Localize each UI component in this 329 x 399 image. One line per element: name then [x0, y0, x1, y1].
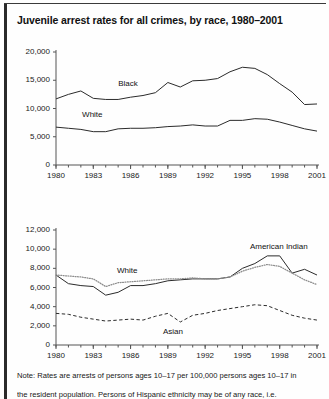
top-border-rule: [4, 3, 326, 4]
x-axis-tick-label: 1995: [224, 351, 260, 360]
figure-note-line-2: the resident population. Persons of Hisp…: [17, 390, 320, 399]
y-axis-tick-label: 0: [0, 160, 50, 169]
x-axis-tick-label: 1986: [113, 351, 149, 360]
y-axis-tick-label: 10,000: [0, 104, 50, 113]
y-axis-tick-label: 6,000: [0, 283, 50, 292]
x-axis-tick-label: 1980: [38, 351, 74, 360]
y-axis-tick-label: 5,000: [0, 132, 50, 141]
y-axis-tick-label: 0: [0, 340, 50, 349]
x-axis-tick-label: 1989: [150, 171, 186, 180]
x-axis-tick-label: 1989: [150, 351, 186, 360]
y-axis-tick-label: 15,000: [0, 75, 50, 84]
chart-panel-top: 05,00010,00015,00020,0001980198319861989…: [0, 40, 329, 190]
y-axis-tick-label: 20,000: [0, 47, 50, 56]
series-label: American Indian: [250, 242, 308, 251]
x-axis-tick-label: 1992: [187, 171, 223, 180]
x-axis-tick-label: 1995: [224, 171, 260, 180]
x-axis-tick-label: 1998: [262, 351, 298, 360]
figure-note-line-1: Note: Rates are arrests of persons ages …: [17, 371, 320, 380]
series-label: Asian: [163, 327, 183, 336]
x-axis-tick-label: 1980: [38, 171, 74, 180]
x-axis-tick-label: 2001: [299, 351, 329, 360]
x-axis-tick-label: 2001: [299, 171, 329, 180]
series-label: White: [82, 110, 102, 119]
y-axis-tick-label: 8,000: [0, 263, 50, 272]
x-axis-tick-label: 1986: [113, 171, 149, 180]
x-axis-tick-label: 1992: [187, 351, 223, 360]
x-axis-tick-label: 1998: [262, 171, 298, 180]
figure-container: Juvenile arrest rates for all crimes, by…: [0, 0, 329, 399]
x-axis-tick-label: 1983: [75, 171, 111, 180]
series-label: Black: [118, 79, 138, 88]
y-axis-tick-label: 12,000: [0, 225, 50, 234]
figure-title: Juvenile arrest rates for all crimes, by…: [17, 14, 283, 26]
x-axis-tick-label: 1983: [75, 351, 111, 360]
y-axis-tick-label: 2,000: [0, 321, 50, 330]
y-axis-tick-label: 10,000: [0, 244, 50, 253]
chart-panel-bottom: 02,0004,0006,0008,00010,00012,0001980198…: [0, 208, 329, 370]
series-label: White: [117, 266, 137, 275]
y-axis-tick-label: 4,000: [0, 302, 50, 311]
